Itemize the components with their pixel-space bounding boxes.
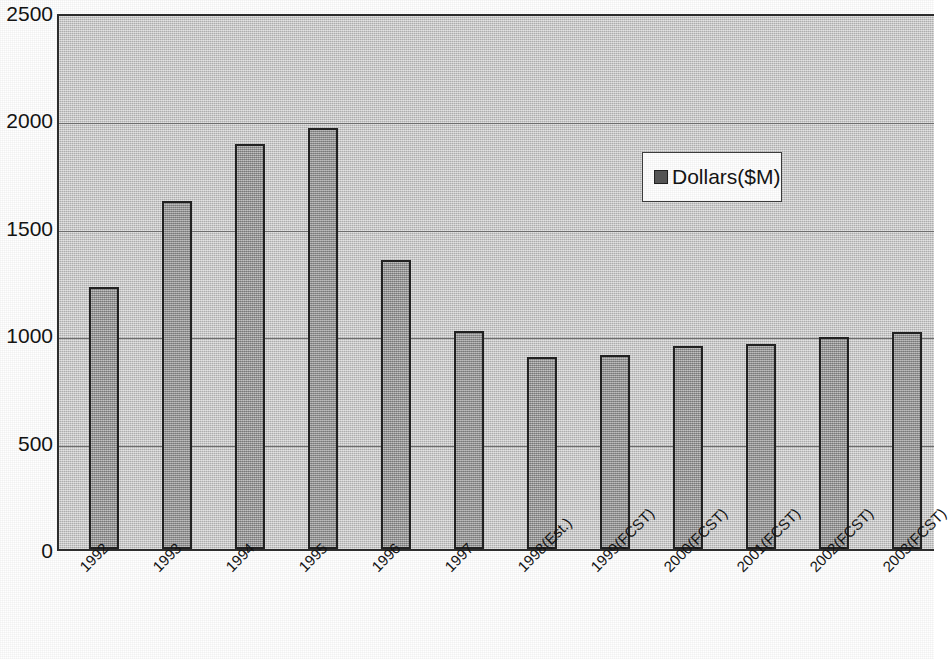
y-tick-label-1500: 1500 [1, 218, 53, 239]
bar-2001(FCST) [746, 344, 776, 549]
legend-label-dollars: Dollars($M) [672, 165, 781, 189]
bar-2003(FCST) [892, 332, 922, 549]
bar-1996 [381, 260, 411, 549]
bar-1995 [308, 128, 338, 549]
gridline-2000 [59, 123, 934, 124]
bar-texture [164, 203, 190, 547]
legend-swatch-dollars-icon [654, 170, 668, 184]
bar-1997 [454, 331, 484, 549]
y-tick-label-1000: 1000 [1, 325, 53, 346]
bar-texture [675, 348, 701, 547]
bar-2000(FCST) [673, 346, 703, 549]
bar-1992 [89, 287, 119, 549]
bar-texture [310, 130, 336, 547]
bar-texture [456, 333, 482, 547]
bar-texture [894, 334, 920, 547]
bar-texture [383, 262, 409, 547]
bar-texture [237, 146, 263, 547]
bar-texture [821, 339, 847, 547]
bar-1994 [235, 144, 265, 549]
y-tick-label-500: 500 [1, 433, 53, 454]
bar-texture [748, 346, 774, 547]
bar-texture [529, 359, 555, 547]
chart-legend: Dollars($M) [642, 152, 782, 202]
x-axis: 1992199319941995199619971998(Est.)1999(F… [0, 551, 934, 659]
bar-1998(Est.) [527, 357, 557, 549]
bar-texture [602, 357, 628, 547]
bar-texture [91, 289, 117, 547]
bar-1999(FCST) [600, 355, 630, 549]
y-tick-label-2000: 2000 [1, 110, 53, 131]
plot-area [57, 14, 934, 551]
y-tick-label-2500: 2500 [1, 3, 53, 24]
bar-2002(FCST) [819, 337, 849, 549]
bar-1993 [162, 201, 192, 549]
